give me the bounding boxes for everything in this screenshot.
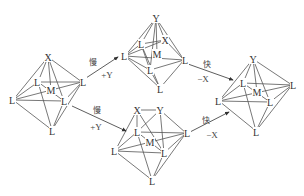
atom-label: L: [253, 127, 259, 138]
atom-label: L: [121, 51, 127, 62]
atom-label: L: [149, 176, 155, 187]
atom-label: L: [157, 84, 163, 95]
atom-label: L: [161, 148, 167, 159]
atom-label: L: [34, 77, 40, 88]
atom-label: M: [253, 87, 262, 98]
atom-label: M: [153, 49, 162, 60]
atom-label: L: [49, 126, 55, 137]
atom-label: L: [267, 97, 273, 108]
atom-label: L: [9, 95, 15, 106]
atom-label: Y: [152, 13, 159, 24]
rate-label-step1-top: 慢: [89, 57, 97, 67]
atom-label: L: [240, 78, 246, 89]
atom-label: L: [184, 128, 190, 139]
atom-label: X: [133, 105, 141, 116]
atom-label: L: [147, 65, 153, 76]
reagent-label-step2-bottom: −X: [206, 130, 218, 140]
rate-label-step1-bottom: 慢: [93, 105, 101, 115]
mechanism-diagram: 慢 +Y 快 −X 慢 +Y 快 −X X L L M L L L Y L X …: [0, 0, 304, 196]
atom-label: L: [215, 96, 221, 107]
reagent-label-step1-top: +Y: [101, 70, 113, 80]
intermediate-bottom-atom-labels: X Y L M L L L L: [111, 105, 191, 187]
atom-label: L: [182, 55, 188, 66]
reagent-label-step1-bottom: +Y: [90, 122, 102, 132]
atom-label: M: [146, 137, 155, 148]
rate-label-step2-bottom: 快: [202, 115, 210, 125]
atom-label: X: [161, 35, 169, 46]
atom-label: L: [290, 80, 296, 91]
atom-label: L: [134, 127, 140, 138]
atom-label: Y: [249, 54, 256, 65]
reagent-label-step2-top: −X: [197, 74, 209, 84]
atom-label: L: [138, 39, 144, 50]
rate-label-step2-top: 快: [203, 59, 211, 69]
atom-label: M: [47, 85, 56, 96]
atom-label: L: [61, 96, 67, 107]
atom-label: L: [111, 146, 117, 157]
atom-label: X: [44, 52, 52, 63]
atom-label: L: [80, 77, 86, 88]
atom-label: Y: [156, 105, 163, 116]
